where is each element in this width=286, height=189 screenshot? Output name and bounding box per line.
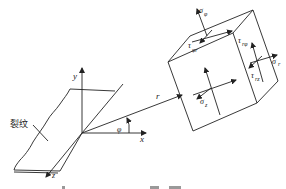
y-axis-label: y bbox=[72, 71, 77, 81]
crack-plane bbox=[14, 84, 123, 173]
sigma-r-label: σ r bbox=[272, 57, 281, 67]
svg-text:rφ: rφ bbox=[242, 41, 248, 47]
crack-tip-stress-diagram: 裂纹 y x z r φ σ φ τ φr τ rφ σ r τ rz σ z bbox=[0, 0, 286, 189]
svg-text:φ: φ bbox=[204, 11, 208, 17]
crack-label: 裂纹 bbox=[10, 118, 28, 129]
tau-phi-r-label: τ φr bbox=[188, 41, 198, 53]
svg-text:σ: σ bbox=[272, 57, 277, 66]
front-face-horizontal-arrow bbox=[193, 80, 236, 95]
svg-text:z: z bbox=[204, 102, 208, 108]
tau-rz-label: τ rz bbox=[251, 71, 260, 82]
stress-element bbox=[168, 10, 278, 131]
svg-text:rz: rz bbox=[255, 76, 260, 82]
svg-text:r: r bbox=[278, 61, 281, 67]
cropped-caption-fragments bbox=[62, 186, 181, 189]
tau-rz-arrow bbox=[249, 56, 262, 68]
angle-label: φ bbox=[117, 125, 122, 134]
tau-phi-r-arrow bbox=[200, 30, 212, 43]
svg-text:φr: φr bbox=[192, 47, 198, 53]
angle-arc bbox=[127, 118, 129, 133]
sigma-z-label: σ z bbox=[200, 97, 208, 108]
z-axis-label: z bbox=[51, 171, 56, 180]
sigma-phi-label: σ φ bbox=[199, 6, 208, 17]
radius-label: r bbox=[156, 91, 160, 101]
x-axis-label: x bbox=[139, 134, 144, 144]
radius-line bbox=[82, 95, 182, 133]
tau-r-phi-label: τ rφ bbox=[238, 36, 248, 47]
